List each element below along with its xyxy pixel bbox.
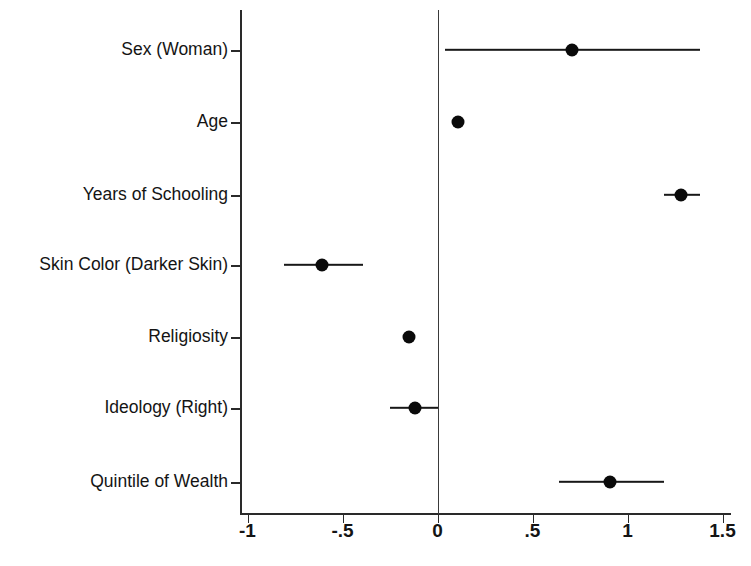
y-axis-tick: [231, 195, 240, 197]
x-axis-tick-label: 1.5: [709, 521, 735, 540]
y-axis-tick-label: Quintile of Wealth: [0, 473, 228, 491]
y-axis-tick: [231, 408, 240, 410]
x-axis-tick-label: 1: [622, 521, 633, 540]
x-axis-tick-label: 0: [432, 521, 443, 540]
y-axis-tick-label: Ideology (Right): [0, 399, 228, 417]
point-estimate-dot: [315, 259, 328, 272]
y-axis-tick: [231, 122, 240, 124]
zero-reference-line: [438, 10, 439, 520]
y-axis-tick-label: Sex (Woman): [0, 41, 228, 59]
point-estimate-dot: [452, 116, 465, 129]
x-axis-line: [240, 513, 731, 515]
y-axis-tick-label: Skin Color (Darker Skin): [0, 256, 228, 274]
x-axis-tick-label: -.5: [331, 521, 353, 540]
y-axis-tick: [231, 482, 240, 484]
point-estimate-dot: [604, 476, 617, 489]
y-axis-tick-label: Age: [0, 113, 228, 131]
x-axis-tick-label: .5: [525, 521, 541, 540]
y-axis-tick: [231, 50, 240, 52]
coefficient-plot-figure: Sex (Woman)AgeYears of SchoolingSkin Col…: [0, 0, 751, 566]
y-axis-tick: [231, 337, 240, 339]
plot-area: [240, 10, 731, 514]
point-estimate-dot: [403, 331, 416, 344]
y-axis-tick-label: Religiosity: [0, 328, 228, 346]
point-estimate-dot: [566, 44, 579, 57]
y-axis-line: [240, 10, 242, 514]
y-axis-tick: [231, 265, 240, 267]
x-axis-tick-label: -1: [239, 521, 256, 540]
point-estimate-dot: [674, 189, 687, 202]
y-axis-tick-label: Years of Schooling: [0, 186, 228, 204]
point-estimate-dot: [408, 402, 421, 415]
